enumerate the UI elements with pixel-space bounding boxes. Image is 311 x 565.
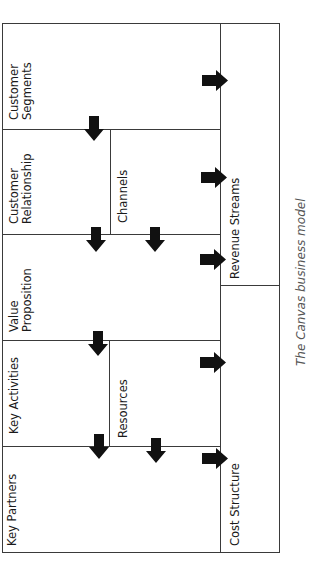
arrow-right-icon — [201, 167, 227, 188]
block-channels: Channels — [117, 170, 130, 223]
label-line: Resources — [117, 379, 130, 438]
business-model-canvas-diagram: Customer Segments Customer Relationship … — [0, 0, 311, 565]
label-line: Relationship — [21, 153, 34, 224]
arrow-down-icon — [146, 438, 166, 463]
block-key-partners: Key Partners — [6, 474, 19, 546]
divider-relationship-value — [2, 234, 220, 235]
arrow-down-icon — [145, 227, 165, 252]
block-key-activities: Key Activities — [8, 357, 21, 434]
arrow-right-icon — [202, 448, 228, 469]
block-revenue-streams: Revenue Streams — [229, 178, 242, 279]
divider-revenue-cost — [220, 285, 279, 286]
block-value-proposition: Value Proposition — [8, 268, 34, 332]
label-line: Channels — [117, 170, 130, 223]
divider-activities-resources — [109, 340, 110, 446]
block-resources: Resources — [117, 379, 130, 438]
label-line: Proposition — [21, 268, 34, 332]
label-line: Key Partners — [6, 474, 19, 546]
label-line: Cost Structure — [229, 463, 242, 546]
arrow-down-icon — [84, 116, 104, 141]
divider-value-activities — [2, 340, 220, 341]
diagram-caption: The Canvas business model — [294, 199, 308, 366]
divider-segments-relationship — [2, 129, 220, 130]
label-line: Key Activities — [8, 357, 21, 434]
right-column-divider — [220, 23, 221, 553]
divider-relationship-channels — [110, 129, 111, 234]
arrow-down-icon — [88, 331, 108, 356]
divider-activities-partners — [2, 446, 220, 447]
arrow-right-icon — [200, 352, 226, 373]
label-line: Segments — [21, 62, 34, 120]
label-line: Revenue Streams — [229, 178, 242, 279]
arrow-down-icon — [86, 227, 106, 252]
block-cost-structure: Cost Structure — [229, 463, 242, 546]
block-customer-relationship: Customer Relationship — [8, 153, 34, 224]
arrow-right-icon — [202, 70, 228, 91]
block-customer-segments: Customer Segments — [8, 62, 34, 120]
arrow-right-icon — [200, 249, 226, 270]
arrow-down-icon — [89, 434, 109, 459]
